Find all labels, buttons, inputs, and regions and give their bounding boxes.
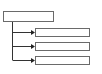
- root-node: [3, 11, 54, 22]
- child-node-2: [35, 42, 90, 51]
- child-node-1: [35, 28, 90, 37]
- child-node-3: [35, 56, 90, 65]
